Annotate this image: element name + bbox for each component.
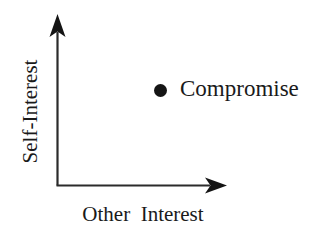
chart-canvas: Self-Interest Other Interest Compromise — [0, 0, 324, 239]
filled-circle-icon — [154, 84, 167, 97]
x-axis-label: Other Interest — [57, 203, 229, 226]
y-axis-label: Self-Interest — [20, 12, 41, 212]
data-point-label-compromise: Compromise — [180, 76, 299, 102]
